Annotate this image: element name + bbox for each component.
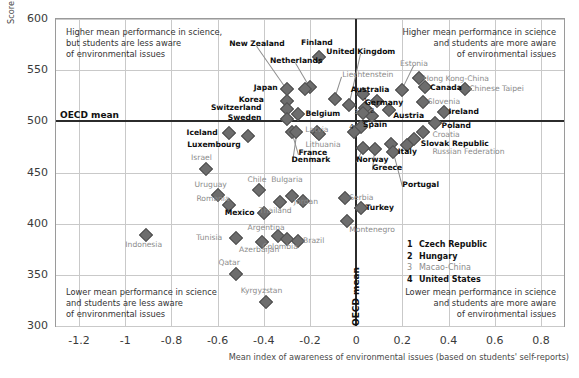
point-label: New Zealand: [229, 39, 285, 48]
legend-number: 3: [407, 262, 414, 274]
point-label: 4: [349, 123, 353, 131]
point-label: 1: [363, 97, 367, 105]
quadrant-note-bottom-right: Lower mean performance in science and st…: [405, 287, 556, 320]
y-tick-label: 550: [6, 63, 48, 76]
oecd-mean-horizontal-line: [56, 120, 564, 122]
plot-area: OECD meanOECD mean New ZealandFinlandNet…: [55, 18, 565, 327]
legend-row: 2Hungary: [407, 251, 487, 263]
point-label: Australia: [351, 85, 390, 94]
footnote-legend: 1Czech Republic2Hungary3Macao-China4Unit…: [407, 239, 487, 285]
data-point-marker: [241, 129, 255, 143]
point-label: Ireland: [449, 107, 479, 116]
legend-row: 1Czech Republic: [407, 239, 487, 251]
y-tick-label: 600: [6, 12, 48, 25]
quadrant-note-top-left: Higher mean performance in science, but …: [66, 27, 222, 60]
point-label: Bulgaria: [271, 175, 303, 184]
point-label: Germany: [365, 98, 404, 107]
legend-label: Macao-China: [419, 262, 471, 274]
data-point-marker: [395, 83, 409, 97]
point-label: 3: [354, 108, 358, 116]
point-label: Azerbaijan: [239, 245, 279, 254]
point-label: Qatar: [218, 258, 239, 267]
point-label: Uruguay: [195, 180, 227, 189]
point-label: Croatia: [432, 130, 459, 139]
point-label: Russian Federation: [432, 147, 504, 156]
legend-label: Hungary: [419, 251, 457, 263]
point-label: Turkey: [365, 203, 393, 212]
point-label: United Kingdom: [326, 47, 395, 56]
point-label: Greece: [372, 163, 402, 172]
point-label: Netherlands: [270, 56, 323, 65]
point-label: Denmark: [292, 155, 331, 164]
point-label: Italy: [398, 147, 417, 156]
legend-label: United States: [419, 274, 481, 286]
gridline-x: [264, 19, 265, 326]
point-label: Chile: [247, 175, 266, 184]
oecd-mean-vertical-label: OECD mean: [351, 274, 361, 326]
point-label: Portugal: [402, 180, 439, 189]
y-tick-label: 300: [6, 319, 48, 332]
y-tick-label: 400: [6, 216, 48, 229]
point-label: Finland: [301, 38, 333, 47]
point-label: Mexico: [225, 208, 255, 217]
legend-row: 4United States: [407, 274, 487, 286]
quadrant-note-top-right: Higher mean performance in science and s…: [402, 27, 556, 60]
point-label: Romania: [196, 194, 229, 203]
gridline-x: [541, 19, 542, 326]
point-label: Iceland: [187, 128, 218, 137]
data-point-marker: [229, 231, 243, 245]
point-label: Austria: [393, 111, 424, 120]
point-label: Serbia: [349, 193, 373, 202]
gridline-x: [171, 19, 172, 326]
gridline-x: [310, 19, 311, 326]
point-label: Argentina: [248, 223, 285, 232]
point-label: Montenegro: [349, 225, 395, 234]
point-label: Kyrgyzstan: [241, 286, 283, 295]
point-label: Thailand: [259, 206, 292, 215]
point-label: Slovenia: [428, 97, 460, 106]
point-label: 2: [370, 107, 374, 115]
legend-number: 1: [407, 239, 414, 251]
data-point-marker: [222, 126, 236, 140]
point-label: Tunisia: [196, 233, 222, 242]
gridline-x: [125, 19, 126, 326]
y-tick-label: 450: [6, 165, 48, 178]
point-label: Estonia: [400, 59, 428, 68]
point-label: Brazil: [303, 236, 324, 245]
data-point-marker: [199, 162, 213, 176]
chart-root: Score OECD meanOECD mean New ZealandFinl…: [0, 0, 579, 378]
data-point-marker: [259, 295, 273, 309]
point-label: Indonesia: [125, 240, 162, 249]
data-point-marker: [428, 116, 442, 130]
legend-label: Czech Republic: [419, 239, 487, 251]
point-label: Latvia: [305, 125, 328, 134]
oecd-mean-horizontal-label: OECD mean: [60, 110, 119, 120]
gridline-x: [79, 19, 80, 326]
point-label: Sweden: [228, 113, 262, 122]
point-label: Liechtenstein: [342, 70, 393, 79]
gridline-x: [495, 19, 496, 326]
point-label: Japan: [254, 83, 278, 92]
y-tick-label: 500: [6, 114, 48, 127]
x-axis-title: Mean index of awareness of environmental…: [229, 352, 569, 362]
point-label: Canada: [430, 83, 462, 92]
gridline-x: [218, 19, 219, 326]
point-label: Switzerland: [211, 103, 262, 112]
point-label: Spain: [363, 120, 387, 129]
data-point-marker: [328, 92, 342, 106]
data-point-marker: [368, 142, 382, 156]
data-point-marker: [229, 267, 243, 281]
x-tick-label: 0.8: [511, 334, 571, 347]
point-label: Luxembourg: [187, 140, 240, 149]
quadrant-note-bottom-left: Lower mean performance in science and st…: [66, 287, 217, 320]
point-label: Belgium: [305, 109, 340, 118]
legend-number: 4: [407, 274, 414, 286]
point-label: Jordan: [294, 197, 318, 206]
legend-number: 2: [407, 251, 414, 263]
point-label: Israel: [191, 153, 212, 162]
point-label: Chinese Taipei: [469, 84, 524, 93]
gridline-y: [56, 326, 564, 327]
y-tick-label: 350: [6, 267, 48, 280]
legend-row: 3Macao-China: [407, 262, 487, 274]
